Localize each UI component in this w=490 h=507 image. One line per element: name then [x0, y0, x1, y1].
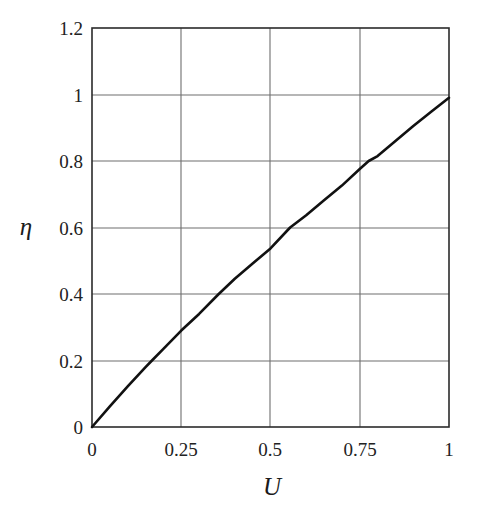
y-tick-label-0_2: 0.2 [59, 351, 83, 372]
y-tick-label-1_2: 1.2 [59, 18, 83, 39]
x-tick-label-0_75: 0.75 [343, 439, 376, 460]
y-tick-label-0_6: 0.6 [59, 218, 83, 239]
y-tick-labels: 1.2 1 0.8 0.6 0.4 0.2 0 [59, 18, 83, 438]
y-tick-label-1: 1 [74, 85, 84, 106]
y-axis-title: η [20, 213, 32, 240]
x-tick-label-1: 1 [444, 439, 454, 460]
y-tick-label-0: 0 [74, 417, 84, 438]
x-tick-label-0: 0 [87, 439, 97, 460]
figure-container: 1.2 1 0.8 0.6 0.4 0.2 0 0 0.25 0.5 0.75 … [0, 0, 490, 507]
y-tick-label-0_8: 0.8 [59, 151, 83, 172]
x-tick-label-0_5: 0.5 [258, 439, 282, 460]
x-tick-labels: 0 0.25 0.5 0.75 1 [87, 439, 454, 460]
x-axis-title: U [263, 473, 283, 500]
chart-svg: 1.2 1 0.8 0.6 0.4 0.2 0 0 0.25 0.5 0.75 … [0, 0, 490, 507]
x-tick-label-0_25: 0.25 [164, 439, 197, 460]
y-tick-label-0_4: 0.4 [59, 284, 83, 305]
